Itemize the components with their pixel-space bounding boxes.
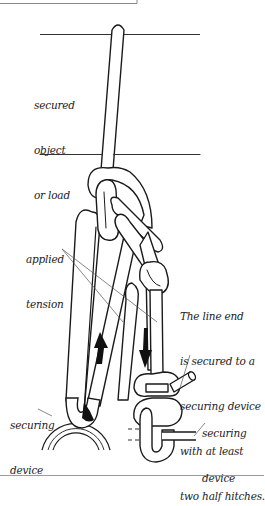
securing-device-right-label: securing device — [202, 396, 247, 506]
securing-device-left-label: securing device — [10, 388, 55, 506]
secured-object-label: secured object or load — [34, 68, 75, 233]
applied-tension-label: applied tension — [26, 222, 64, 342]
